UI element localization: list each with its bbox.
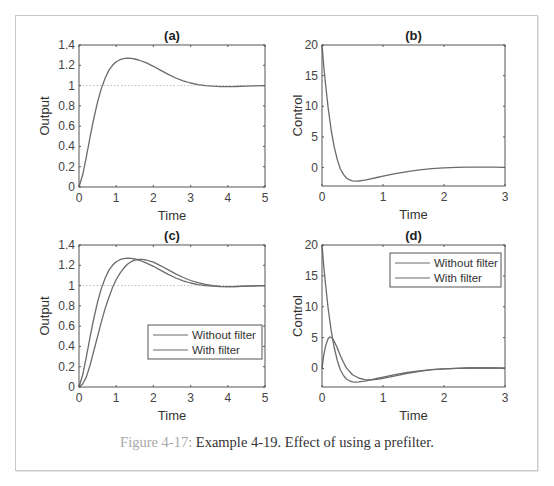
x-tick-label: 3 (502, 391, 509, 405)
y-tick-label: 0.8 (58, 99, 75, 113)
x-tick-label: 5 (262, 391, 269, 405)
series-line-control (322, 45, 505, 181)
y-tick-label: 0.6 (58, 119, 75, 133)
x-tick-label: 0 (76, 191, 83, 205)
y-tick-label: 10 (305, 300, 319, 314)
legend-entry: Without filter (192, 329, 256, 341)
x-tick-label: 3 (502, 190, 509, 204)
y-tick-label: 0.8 (58, 299, 75, 313)
x-axis-label: Time (158, 408, 186, 423)
axes-box (79, 245, 265, 387)
y-tick-label: 1.2 (58, 58, 75, 72)
series-line-with-filter (79, 259, 265, 387)
x-tick-label: 5 (262, 191, 269, 205)
y-tick-label: 20 (305, 38, 319, 52)
y-tick-label: 20 (305, 238, 319, 252)
y-tick-label: 15 (305, 69, 319, 83)
legend: Without filterWith filter (148, 325, 262, 359)
series-line-with-filter (322, 337, 505, 380)
x-tick-label: 3 (187, 391, 194, 405)
y-tick-label: 0 (311, 161, 318, 175)
x-tick-label: 1 (380, 190, 387, 204)
panel-title: (d) (405, 228, 422, 243)
y-tick-label: 0 (311, 361, 318, 375)
panel-a-chart: 01234500.20.40.60.811.21.4(a)TimeOutput (37, 28, 269, 223)
y-tick-label: 10 (305, 99, 319, 113)
axes-box (322, 45, 505, 186)
panel-title: (b) (405, 28, 422, 43)
panel-c-chart: 01234500.20.40.60.811.21.4(c)TimeOutputW… (37, 228, 269, 423)
x-tick-label: 0 (76, 391, 83, 405)
series-line-output (79, 58, 265, 187)
x-axis-label: Time (399, 207, 427, 222)
panel-title: (a) (164, 28, 180, 43)
panel-b-chart: 012305101520(b)TimeControl (290, 28, 509, 222)
y-tick-label: 0.4 (58, 139, 75, 153)
y-tick-label: 1.2 (58, 258, 75, 272)
x-tick-label: 2 (150, 191, 157, 205)
legend-entry: With filter (192, 344, 240, 356)
y-tick-label: 0.2 (58, 360, 75, 374)
y-tick-label: 1 (68, 279, 75, 293)
x-tick-label: 4 (224, 391, 231, 405)
y-tick-label: 5 (311, 331, 318, 345)
legend-entry: With filter (434, 272, 482, 284)
x-tick-label: 0 (319, 190, 326, 204)
figure-canvas: 01234500.20.40.60.811.21.4(a)TimeOutput … (0, 0, 554, 486)
x-tick-label: 2 (150, 391, 157, 405)
y-tick-label: 0.6 (58, 319, 75, 333)
y-tick-label: 1 (68, 79, 75, 93)
axes-box (79, 45, 265, 187)
caption-label: Figure 4-17: (120, 434, 192, 450)
x-tick-label: 1 (113, 391, 120, 405)
x-tick-label: 4 (224, 191, 231, 205)
x-tick-label: 2 (441, 190, 448, 204)
x-tick-label: 3 (187, 191, 194, 205)
y-axis-label: Output (37, 296, 52, 335)
legend-entry: Without filter (434, 257, 498, 269)
legend: Without filterWith filter (390, 253, 501, 287)
y-axis-label: Control (290, 94, 305, 136)
y-tick-label: 15 (305, 269, 319, 283)
x-tick-label: 1 (380, 391, 387, 405)
series-line-without-filter (79, 258, 265, 387)
y-tick-label: 0.4 (58, 339, 75, 353)
caption-text: Example 4-19. Effect of using a prefilte… (192, 434, 434, 450)
panel-title: (c) (164, 228, 180, 243)
y-tick-label: 1.4 (58, 38, 75, 52)
y-tick-label: 0 (68, 380, 75, 394)
y-tick-label: 0 (68, 180, 75, 194)
x-tick-label: 1 (113, 191, 120, 205)
y-tick-label: 0.2 (58, 160, 75, 174)
x-axis-label: Time (158, 208, 186, 223)
y-tick-label: 1.4 (58, 238, 75, 252)
x-tick-label: 2 (441, 391, 448, 405)
y-tick-label: 5 (311, 130, 318, 144)
figure-caption: Figure 4-17: Example 4-19. Effect of usi… (0, 434, 554, 451)
x-tick-label: 0 (319, 391, 326, 405)
y-axis-label: Control (290, 295, 305, 337)
panel-d-chart: 012305101520(d)TimeControlWithout filter… (290, 228, 509, 423)
y-axis-label: Output (37, 96, 52, 135)
x-axis-label: Time (399, 408, 427, 423)
